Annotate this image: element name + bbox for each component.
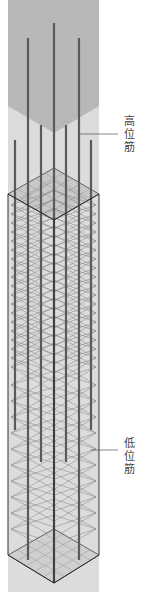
rebar-column-diagram <box>0 0 142 603</box>
high-bars-label: 高位筋 <box>123 115 135 154</box>
low-bars-label: 低位筋 <box>123 437 135 476</box>
